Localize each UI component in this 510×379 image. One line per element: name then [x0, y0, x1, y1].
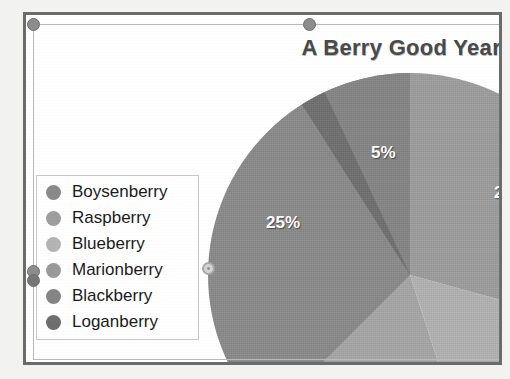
legend-label: Boysenberry [72, 182, 167, 202]
legend-swatch-icon [46, 237, 61, 252]
resize-handle-legend-right[interactable] [202, 262, 215, 275]
legend-label: Blackberry [72, 286, 152, 306]
document-frame: 25% 5% 2 A Berry Good Year Boysenberry R… [23, 12, 502, 365]
chart-legend[interactable]: Boysenberry Raspberry Blueberry Marionbe… [36, 175, 199, 340]
pie-label-loganberry: 5% [371, 143, 396, 163]
resize-handle-top-center[interactable] [303, 18, 316, 31]
legend-item-blackberry[interactable]: Blackberry [37, 283, 198, 309]
resize-handle-middle-left-secondary[interactable] [27, 274, 40, 287]
legend-swatch-icon [46, 263, 61, 278]
legend-swatch-icon [46, 211, 61, 226]
chart-object[interactable]: 25% 5% 2 A Berry Good Year Boysenberry R… [26, 15, 499, 362]
legend-item-loganberry[interactable]: Loganberry [37, 309, 198, 335]
legend-label: Raspberry [72, 208, 150, 228]
legend-swatch-icon [46, 289, 61, 304]
legend-swatch-icon [46, 185, 61, 200]
legend-swatch-icon [46, 315, 61, 330]
legend-label: Loganberry [72, 312, 158, 332]
pie-label-boysenberry: 25% [266, 213, 300, 233]
legend-item-raspberry[interactable]: Raspberry [37, 205, 198, 231]
chart-title[interactable]: A Berry Good Year [301, 35, 499, 61]
legend-item-marionberry[interactable]: Marionberry [37, 257, 198, 283]
legend-item-boysenberry[interactable]: Boysenberry [37, 179, 198, 205]
legend-item-blueberry[interactable]: Blueberry [37, 231, 198, 257]
resize-handle-top-left[interactable] [27, 18, 40, 31]
legend-label: Blueberry [72, 234, 145, 254]
pie-label-raspberry-clipped: 2 [494, 183, 499, 203]
screenshot-root: 25% 5% 2 A Berry Good Year Boysenberry R… [0, 0, 510, 379]
pie-slices-group [208, 73, 499, 362]
legend-label: Marionberry [72, 260, 163, 280]
